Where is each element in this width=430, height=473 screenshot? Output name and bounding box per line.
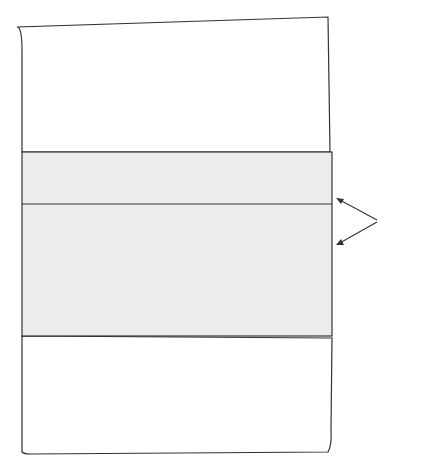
bottom-label-card bbox=[22, 336, 332, 454]
arrow-up-head bbox=[336, 198, 344, 204]
arrow-down bbox=[338, 222, 377, 244]
abacus-frame bbox=[22, 152, 332, 336]
arrow-up bbox=[338, 199, 377, 220]
value-pointer bbox=[336, 198, 377, 245]
top-label-card bbox=[18, 17, 330, 152]
abacus-diagram bbox=[0, 0, 430, 473]
arrow-down-head bbox=[336, 239, 344, 245]
